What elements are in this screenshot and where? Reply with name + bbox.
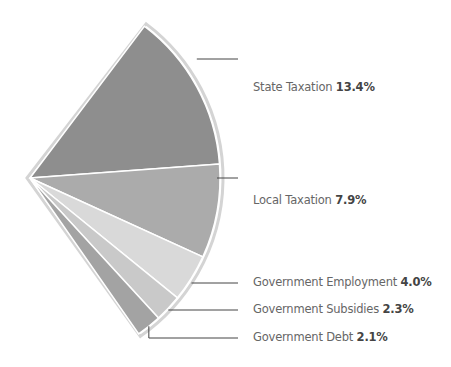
label-government-debt: Government Debt 2.1% [253, 330, 388, 344]
leader-line [149, 326, 238, 338]
label-government-employment: Government Employment 4.0% [253, 275, 432, 289]
label-state-taxation: State Taxation 13.4% [253, 80, 375, 94]
pie-slice-state-taxation [30, 26, 219, 178]
label-government-subsidies: Government Subsidies 2.3% [253, 302, 414, 316]
label-local-taxation: Local Taxation 7.9% [253, 193, 366, 207]
